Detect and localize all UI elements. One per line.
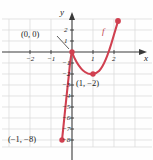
point-right-endpoint [115,18,121,24]
y-tick-label-1: 1 [64,37,68,45]
y-tick-label-2: 2 [64,26,68,34]
point-origin [69,49,74,54]
minimum-point-label: (1, −2) [76,78,99,88]
function-name-label: f [102,26,105,36]
graph-figure: y x −2 −1 1 2 2 1 −1 −2 −3 −4 −5 −6 −7 −… [0,0,153,160]
y-tick-label--7: −7 [62,125,70,133]
y-tick-label--6: −6 [62,114,70,122]
y-tick-label--4: −4 [62,92,70,100]
y-tick-label--5: −5 [62,103,70,111]
left-endpoint-label: (−1, −8) [8,134,36,144]
origin-point-label: (0, 0) [21,29,39,39]
x-axis-label: x [144,53,148,63]
y-tick-label--2: −2 [62,70,70,78]
y-tick-label--1: −1 [62,59,70,67]
x-tick-label-2: 2 [112,55,116,63]
x-tick-label--2: −2 [26,55,34,63]
y-tick-label--3: −3 [62,81,70,89]
x-tick-label--1: −1 [47,55,55,63]
y-tick-label--8: −8 [62,136,70,144]
x-tick-label-1: 1 [91,55,95,63]
y-axis-arrow [69,12,75,20]
point-minimum [90,71,95,76]
y-axis-label: y [60,7,64,17]
